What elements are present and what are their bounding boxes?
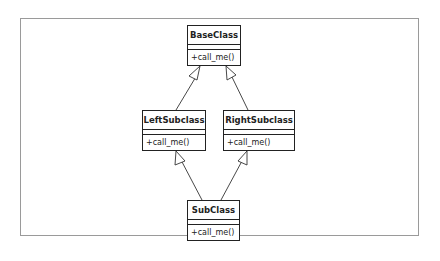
class-box-baseclass[interactable]: BaseClass +call_me() xyxy=(187,25,241,66)
operation: +call_me() xyxy=(188,225,239,241)
hollow-triangle-icon xyxy=(226,66,236,80)
class-box-leftsubclass[interactable]: LeftSubclass +call_me() xyxy=(142,110,206,151)
generalization-right-to-base xyxy=(231,75,248,110)
class-name: RightSubclass xyxy=(224,111,294,130)
operation: +call_me() xyxy=(224,135,294,151)
class-name: BaseClass xyxy=(188,26,240,45)
class-name: LeftSubclass xyxy=(143,111,205,130)
class-box-subclass[interactable]: SubClass +call_me() xyxy=(187,200,240,241)
generalization-sub-to-left xyxy=(181,160,202,200)
class-box-rightsubclass[interactable]: RightSubclass +call_me() xyxy=(223,110,295,151)
generalization-left-to-base xyxy=(176,75,197,110)
hollow-triangle-icon xyxy=(189,66,200,80)
operation: +call_me() xyxy=(143,135,205,151)
operation: +call_me() xyxy=(188,50,240,66)
generalization-sub-to-right xyxy=(221,161,242,200)
hollow-triangle-icon xyxy=(175,151,185,165)
class-name: SubClass xyxy=(188,201,239,220)
hollow-triangle-icon xyxy=(238,151,247,165)
